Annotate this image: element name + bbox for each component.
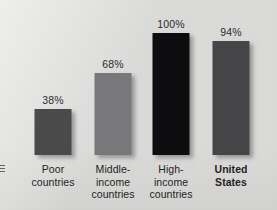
bar-value-label-middle-income-countries: 68% bbox=[82, 58, 144, 70]
bar-category-label-united-states: United States bbox=[194, 163, 268, 188]
bar-chart-plot-area: 38% Poor countries 68% Middle- income co… bbox=[0, 0, 277, 210]
bar-high-income-countries[interactable] bbox=[153, 33, 190, 155]
bar-column-poor-countries: 38% bbox=[22, 33, 84, 155]
bar-group-poor-countries: 38% Poor countries bbox=[22, 0, 84, 210]
bar-value-label-united-states: 94% bbox=[200, 26, 262, 38]
bar-group-united-states: 94% United States bbox=[200, 0, 262, 210]
category-line: States bbox=[194, 176, 268, 189]
chart-figure: 38% Poor countries 68% Middle- income co… bbox=[0, 0, 277, 210]
bar-group-high-income-countries: 100% High- income countries bbox=[140, 0, 202, 210]
bar-column-high-income-countries: 100% bbox=[140, 33, 202, 155]
bar-column-middle-income-countries: 68% bbox=[82, 33, 144, 155]
bar-poor-countries[interactable] bbox=[35, 109, 72, 155]
category-line: countries bbox=[134, 188, 208, 201]
bar-value-label-poor-countries: 38% bbox=[22, 94, 84, 106]
bar-middle-income-countries[interactable] bbox=[95, 73, 132, 155]
bar-united-states[interactable] bbox=[213, 41, 250, 155]
bar-column-united-states: 94% bbox=[200, 33, 262, 155]
category-line: United bbox=[194, 163, 268, 176]
bar-value-label-high-income-countries: 100% bbox=[140, 18, 202, 30]
